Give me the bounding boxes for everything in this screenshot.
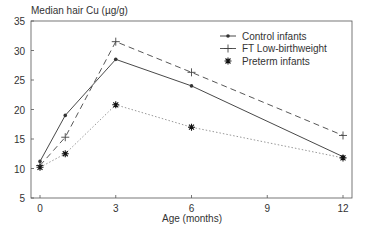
legend-label: Preterm infants bbox=[242, 56, 310, 67]
dot-marker bbox=[63, 114, 67, 118]
plus-marker bbox=[188, 68, 196, 76]
y-tick-label: 25 bbox=[14, 75, 26, 86]
x-tick-label: 0 bbox=[37, 203, 43, 214]
asterisk-marker bbox=[188, 124, 195, 131]
legend-item: Preterm infants bbox=[225, 56, 310, 67]
y-tick-label: 15 bbox=[14, 134, 26, 145]
x-axis-label: Age (months) bbox=[162, 213, 222, 224]
asterisk-marker bbox=[112, 101, 119, 108]
asterisk-marker bbox=[340, 154, 347, 161]
line-chart: 5101520253035036912 Control infantsFT Lo… bbox=[0, 0, 367, 235]
y-axis-label: Median hair Cu (µg/g) bbox=[31, 5, 128, 16]
y-tick-label: 5 bbox=[19, 193, 25, 204]
plus-marker bbox=[224, 45, 232, 53]
legend-label: Control infants bbox=[242, 31, 306, 42]
y-tick-label: 20 bbox=[14, 105, 26, 116]
asterisk-marker bbox=[37, 164, 44, 171]
asterisk-marker bbox=[225, 58, 232, 65]
y-tick-label: 10 bbox=[14, 164, 26, 175]
dot-marker bbox=[190, 84, 194, 88]
legend-item: FT Low-birthweight bbox=[220, 43, 327, 54]
legend: Control infantsFT Low-birthweightPreterm… bbox=[220, 31, 327, 67]
x-tick-label: 3 bbox=[113, 203, 119, 214]
x-tick-label: 9 bbox=[264, 203, 270, 214]
dot-marker bbox=[226, 34, 230, 38]
legend-label: FT Low-birthweight bbox=[242, 43, 327, 54]
plus-marker bbox=[112, 38, 120, 46]
dot-marker bbox=[114, 58, 118, 62]
series-line bbox=[40, 105, 343, 168]
y-tick-label: 30 bbox=[14, 46, 26, 57]
legend-item: Control infants bbox=[220, 31, 306, 42]
x-tick-label: 12 bbox=[337, 203, 349, 214]
series-preterm-infants bbox=[37, 101, 347, 171]
y-tick-label: 35 bbox=[14, 16, 26, 27]
asterisk-marker bbox=[62, 150, 69, 157]
plus-marker bbox=[339, 131, 347, 139]
